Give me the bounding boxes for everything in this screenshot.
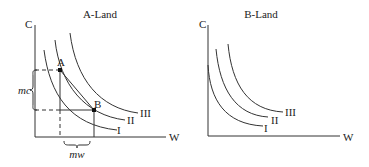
curve-III	[228, 44, 283, 112]
x-axis-label: W	[169, 131, 180, 143]
panel-title: B-Land	[244, 8, 278, 20]
brace-mc	[30, 70, 37, 110]
panel-title: A-Land	[83, 8, 118, 20]
curve-II	[55, 40, 125, 120]
curve-label-I: I	[117, 124, 121, 136]
curve-label-II: II	[271, 114, 279, 126]
curve-label-II: II	[127, 114, 135, 126]
y-axis-label: C	[25, 18, 32, 30]
point-a	[58, 68, 62, 72]
curve-I	[208, 65, 263, 126]
brace-mw	[64, 141, 90, 148]
segment-a-b	[60, 70, 94, 110]
brace-label-mc: mc	[18, 84, 31, 96]
curve-III	[70, 33, 138, 113]
curve-label-I: I	[264, 122, 268, 134]
brace-label-mw: mw	[69, 148, 85, 160]
y-axis-label: C	[199, 18, 206, 30]
curve-label-III: III	[140, 107, 151, 119]
diagram-canvas: A-Land C W I II III A B mc mw	[0, 0, 369, 167]
panel-b-land: B-Land C W I II III	[199, 8, 354, 143]
curve-label-III: III	[285, 106, 296, 118]
point-label-b: B	[94, 98, 101, 110]
x-axis-label: W	[343, 131, 354, 143]
point-label-a: A	[57, 56, 65, 68]
panel-a-land: A-Land C W I II III A B mc mw	[18, 8, 180, 160]
curve-II	[216, 49, 268, 117]
curve-I	[44, 50, 117, 130]
